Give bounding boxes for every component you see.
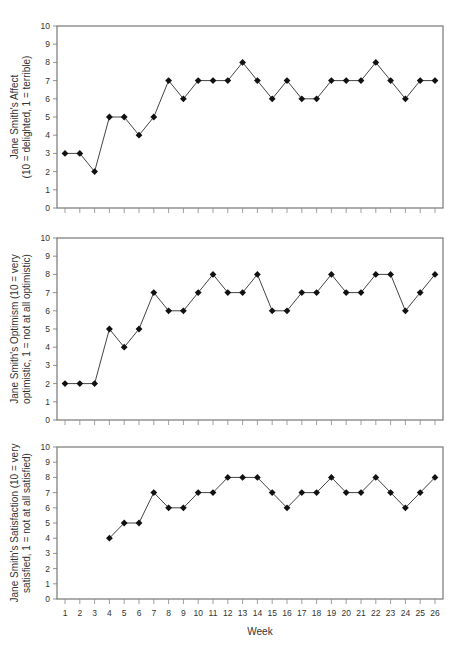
y-tick-label: 7 [45, 76, 50, 86]
data-point-diamond [62, 380, 69, 387]
x-tick-label: 8 [166, 608, 171, 618]
data-point-diamond [91, 380, 98, 387]
y-tick-label: 9 [45, 251, 50, 261]
y-tick-label: 7 [45, 288, 50, 298]
y-tick-label: 4 [45, 342, 50, 352]
y-tick-label: 6 [45, 306, 50, 316]
x-tick-label: 9 [181, 608, 186, 618]
y-tick-label: 4 [45, 130, 50, 140]
data-point-diamond [387, 271, 394, 278]
y-axis-title: Jane Smith's Satisfaction (10 = very [9, 444, 20, 603]
chart-panel-optimism: 012345678910Jane Smith's Optimism (10 = … [9, 233, 443, 425]
x-tick-label: 11 [209, 608, 218, 618]
x-tick-label: 7 [151, 608, 156, 618]
data-point-diamond [62, 150, 69, 157]
y-tick-label: 3 [45, 360, 50, 370]
data-point-diamond [136, 520, 143, 527]
x-tick-label: 25 [415, 608, 425, 618]
x-tick-label: 18 [312, 608, 322, 618]
y-axis-title: optimistic, 1 = not at all optimistic) [21, 254, 32, 404]
x-tick-label: 1 [63, 608, 68, 618]
y-tick-label: 3 [45, 148, 50, 158]
x-tick-label: 24 [401, 608, 411, 618]
y-tick-label: 5 [45, 324, 50, 334]
x-tick-label: 19 [327, 608, 337, 618]
data-line [109, 477, 435, 538]
x-tick-label: 17 [297, 608, 307, 618]
y-tick-label: 3 [45, 548, 50, 558]
y-tick-label: 1 [45, 397, 50, 407]
y-tick-label: 9 [45, 39, 50, 49]
data-line [65, 62, 435, 171]
x-tick-label: 21 [356, 608, 366, 618]
x-tick-label: 4 [107, 608, 112, 618]
data-point-diamond [76, 380, 83, 387]
data-point-diamond [432, 77, 439, 84]
x-tick-label: 15 [267, 608, 277, 618]
y-tick-label: 6 [45, 94, 50, 104]
y-tick-label: 5 [45, 112, 50, 122]
data-point-diamond [343, 77, 350, 84]
y-tick-label: 2 [45, 564, 50, 574]
y-tick-label: 2 [45, 379, 50, 389]
chart-figure: 012345678910Jane Smith's Affect(10 = del… [0, 0, 455, 648]
x-tick-label: 3 [92, 608, 97, 618]
x-tick-label: 5 [122, 608, 127, 618]
x-tick-label: 13 [238, 608, 248, 618]
x-tick-label: 14 [253, 608, 263, 618]
y-tick-label: 8 [45, 57, 50, 67]
y-tick-label: 1 [45, 185, 50, 195]
x-tick-label: 22 [371, 608, 381, 618]
x-tick-label: 16 [282, 608, 292, 618]
y-tick-label: 5 [45, 518, 50, 528]
y-tick-label: 10 [41, 21, 51, 31]
x-tick-label: 10 [193, 608, 203, 618]
y-tick-label: 0 [45, 594, 50, 604]
y-axis-title: Jane Smith's Optimism (10 = very [9, 254, 20, 403]
y-tick-label: 0 [45, 415, 50, 425]
x-tick-label: 20 [341, 608, 351, 618]
y-axis-title: Jane Smith's Affect [9, 75, 20, 160]
y-tick-label: 8 [45, 472, 50, 482]
y-tick-label: 2 [45, 167, 50, 177]
y-tick-label: 6 [45, 503, 50, 513]
y-tick-label: 8 [45, 269, 50, 279]
y-axis-title: (10 = delighted, 1 = terrible) [21, 56, 32, 179]
x-tick-label: 23 [386, 608, 396, 618]
y-tick-label: 9 [45, 457, 50, 467]
data-point-diamond [106, 114, 113, 121]
x-axis-title: Week [247, 626, 273, 637]
y-tick-label: 0 [45, 203, 50, 213]
x-tick-label: 26 [430, 608, 440, 618]
x-tick-label: 6 [137, 608, 142, 618]
chart-panel-satisfaction: 0123456789101234567891011121314151617181… [9, 442, 443, 637]
y-tick-label: 1 [45, 579, 50, 589]
plot-frame [57, 447, 443, 599]
y-tick-label: 10 [41, 233, 51, 243]
y-tick-label: 7 [45, 488, 50, 498]
data-point-diamond [210, 77, 217, 84]
plot-frame [57, 238, 443, 420]
chart-panel-affect: 012345678910Jane Smith's Affect(10 = del… [9, 21, 443, 213]
y-axis-title: satisfied, 1 = not at all satisfied) [21, 453, 32, 593]
data-line [65, 274, 435, 383]
y-tick-label: 4 [45, 533, 50, 543]
y-tick-label: 10 [41, 442, 51, 452]
x-tick-label: 12 [223, 608, 233, 618]
data-point-diamond [239, 474, 246, 481]
x-tick-label: 2 [77, 608, 82, 618]
data-point-diamond [269, 307, 276, 314]
